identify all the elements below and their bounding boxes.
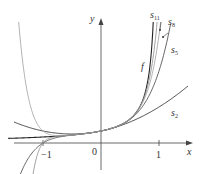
curve-label-s5: s5 — [171, 44, 178, 56]
curve-label-f: f — [141, 61, 145, 72]
tick-label-neg1: −1 — [41, 149, 52, 160]
taylor-polynomials-chart: y x 0 −1 1 f s11 s8 s5 s2 — [0, 0, 200, 174]
y-axis-label: y — [89, 13, 95, 24]
s8-pointer-dot — [162, 36, 164, 38]
curve-label-s2: s2 — [171, 107, 178, 119]
x-axis-arrow-icon — [186, 141, 193, 146]
s8-sub: 8 — [172, 22, 175, 28]
y-axis-arrow-icon — [99, 18, 104, 25]
x-axis-label: x — [186, 146, 192, 157]
tick-label-pos1: 1 — [156, 149, 161, 160]
s11-sub: 11 — [154, 15, 160, 21]
curve-label-s11: s11 — [150, 9, 160, 21]
s5-sub: 5 — [175, 50, 178, 56]
curve-s8 — [14, 0, 162, 136]
curve-f — [8, 17, 153, 139]
curve-group — [8, 0, 188, 174]
origin-label: 0 — [92, 146, 97, 157]
curve-label-s8: s8 — [168, 16, 175, 28]
s2-sub: 2 — [175, 113, 178, 119]
s11-pointer-dot — [159, 29, 161, 31]
